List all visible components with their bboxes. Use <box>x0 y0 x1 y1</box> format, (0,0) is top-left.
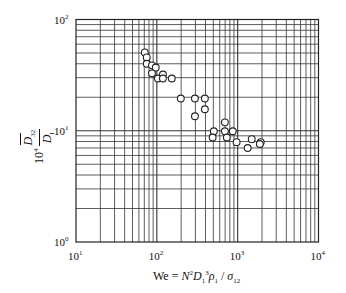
y-label-fraction: D32 DI <box>22 129 56 147</box>
data-point-marker <box>149 70 156 77</box>
x-axis-label: We = N2D13ρ1 / σ12 <box>153 269 240 285</box>
y-tick-labels: 100101102 <box>54 13 69 249</box>
x-tick-label: 103 <box>230 249 245 262</box>
data-point-marker <box>192 95 199 102</box>
y-axis-label: 104 D32 DI <box>22 94 56 164</box>
data-point-marker <box>256 141 263 148</box>
data-point-marker <box>221 119 228 126</box>
y-tick-label: 102 <box>54 13 69 26</box>
data-point-marker <box>201 106 208 113</box>
data-point-marker <box>209 134 216 141</box>
data-point-marker <box>248 136 255 143</box>
y-tick-label: 100 <box>54 235 69 248</box>
data-point-marker <box>229 128 236 135</box>
data-point-marker <box>201 95 208 102</box>
grid-lines <box>76 20 319 243</box>
x-tick-labels: 101102103104 <box>68 249 326 262</box>
data-point-marker <box>168 75 175 82</box>
x-tick-label: 104 <box>311 249 326 262</box>
x-tick-label: 102 <box>149 249 164 262</box>
data-point-marker <box>233 139 240 146</box>
data-point-marker <box>143 54 150 61</box>
y-label-prefix: 104 <box>32 149 47 165</box>
y-tick-label: 101 <box>54 124 69 137</box>
data-point-marker <box>160 75 167 82</box>
data-point-marker <box>192 113 199 120</box>
data-point-marker <box>177 95 184 102</box>
x-tick-label: 101 <box>68 249 83 262</box>
data-point-marker <box>244 145 251 152</box>
data-point-marker <box>210 128 217 135</box>
data-point-marker <box>223 134 230 141</box>
